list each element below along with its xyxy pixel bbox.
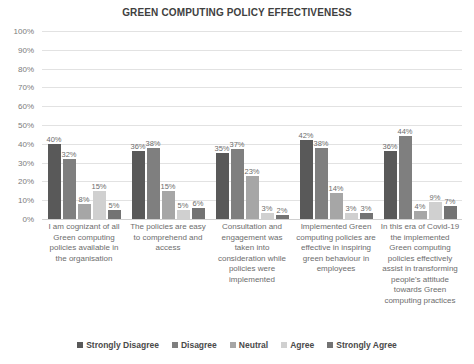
y-axis-tick-70: 70%: [18, 83, 34, 92]
bar-slot: 38%: [315, 31, 328, 219]
bar-slot: 3%: [360, 31, 373, 219]
bar-slot: 7%: [444, 31, 457, 219]
bar-value-label: 5%: [109, 201, 120, 210]
bar-slot: 32%: [63, 31, 76, 219]
bar[interactable]: [132, 151, 145, 219]
y-axis-tick-100: 100%: [14, 27, 34, 36]
bar-cluster: 42%38%14%3%3%: [294, 31, 378, 219]
bar[interactable]: [444, 206, 457, 219]
gridline-0: [42, 219, 462, 220]
bar[interactable]: [48, 144, 61, 219]
bar[interactable]: [147, 148, 160, 219]
bar-value-label: 7%: [445, 197, 456, 206]
bar[interactable]: [360, 213, 373, 219]
y-axis-tick-40: 40%: [18, 139, 34, 148]
legend-swatch-icon: [230, 342, 236, 348]
bar-value-label: 4%: [415, 202, 426, 211]
legend-swatch-icon: [77, 342, 83, 348]
bar-slot: 3%: [261, 31, 274, 219]
x-axis-category-label: The policies are easy to comprehend and …: [126, 222, 210, 332]
bar-value-label: 23%: [244, 167, 259, 176]
bar-groups: 40%32%8%15%5%36%38%15%5%6%35%37%23%3%2%4…: [42, 31, 462, 219]
bar-cluster: 36%44%4%9%7%: [378, 31, 462, 219]
bar[interactable]: [315, 148, 328, 219]
legend-item[interactable]: Agree: [281, 340, 314, 350]
bar-value-label: 36%: [382, 142, 397, 151]
bar[interactable]: [414, 211, 427, 219]
legend-label: Disagree: [181, 340, 217, 350]
legend-item[interactable]: Strongly Disagree: [77, 340, 159, 350]
bar-value-label: 3%: [262, 204, 273, 213]
bar[interactable]: [429, 202, 442, 219]
y-axis-tick-80: 80%: [18, 64, 34, 73]
bar[interactable]: [216, 153, 229, 219]
bar-slot: 37%: [231, 31, 244, 219]
bar-slot: 14%: [330, 31, 343, 219]
legend-item[interactable]: Neutral: [230, 340, 268, 350]
bar-group: 40%32%8%15%5%: [42, 31, 126, 219]
y-axis-tick-0: 0%: [22, 215, 34, 224]
y-axis-tick-60: 60%: [18, 102, 34, 111]
bar[interactable]: [192, 208, 205, 219]
bar-group: 36%38%15%5%6%: [126, 31, 210, 219]
bar-value-label: 15%: [160, 182, 175, 191]
bar-value-label: 38%: [313, 139, 328, 148]
bar-slot: 38%: [147, 31, 160, 219]
bar[interactable]: [384, 151, 397, 219]
bar-value-label: 9%: [430, 193, 441, 202]
legend-item[interactable]: Strongly Agree: [327, 340, 397, 350]
bar[interactable]: [108, 210, 121, 219]
y-axis: 0%10%20%30%40%50%60%70%80%90%100%: [0, 31, 38, 219]
bar[interactable]: [78, 204, 91, 219]
bar-group: 42%38%14%3%3%: [294, 31, 378, 219]
bar[interactable]: [399, 136, 412, 219]
bar[interactable]: [63, 159, 76, 219]
bar-value-label: 32%: [61, 150, 76, 159]
bar-slot: 36%: [384, 31, 397, 219]
bar-slot: 9%: [429, 31, 442, 219]
bar-value-label: 36%: [130, 142, 145, 151]
bar-group: 36%44%4%9%7%: [378, 31, 462, 219]
bar[interactable]: [261, 213, 274, 219]
bar-slot: 4%: [414, 31, 427, 219]
y-axis-tick-50: 50%: [18, 121, 34, 130]
bar[interactable]: [93, 191, 106, 219]
legend-swatch-icon: [281, 342, 287, 348]
legend-label: Strongly Disagree: [86, 340, 159, 350]
bar[interactable]: [162, 191, 175, 219]
bar-value-label: 37%: [229, 140, 244, 149]
bar-slot: 36%: [132, 31, 145, 219]
legend-label: Strongly Agree: [336, 340, 397, 350]
bar-slot: 42%: [300, 31, 313, 219]
bar-value-label: 42%: [298, 131, 313, 140]
bar-value-label: 2%: [277, 206, 288, 215]
bar[interactable]: [246, 176, 259, 219]
bar-value-label: 44%: [397, 127, 412, 136]
legend-label: Agree: [290, 340, 314, 350]
y-axis-tick-10: 10%: [18, 196, 34, 205]
bar-value-label: 5%: [178, 201, 189, 210]
bar[interactable]: [276, 215, 289, 219]
bar-value-label: 3%: [346, 204, 357, 213]
y-axis-tick-30: 30%: [18, 158, 34, 167]
bar[interactable]: [345, 213, 358, 219]
x-axis-category-labels: I am cognizant of all Green computing po…: [42, 222, 462, 332]
bar-slot: 6%: [192, 31, 205, 219]
bar[interactable]: [300, 140, 313, 219]
bar-slot: 8%: [78, 31, 91, 219]
legend-item[interactable]: Disagree: [172, 340, 217, 350]
bar-slot: 2%: [276, 31, 289, 219]
bar-value-label: 35%: [214, 144, 229, 153]
bar-slot: 35%: [216, 31, 229, 219]
bar-slot: 5%: [108, 31, 121, 219]
bar-slot: 15%: [93, 31, 106, 219]
bar[interactable]: [330, 193, 343, 219]
bar-value-label: 3%: [361, 204, 372, 213]
legend-swatch-icon: [172, 342, 178, 348]
bar[interactable]: [231, 149, 244, 219]
bar-slot: 15%: [162, 31, 175, 219]
bar-slot: 44%: [399, 31, 412, 219]
bar-value-label: 15%: [91, 182, 106, 191]
bar[interactable]: [177, 210, 190, 219]
bar-value-label: 40%: [46, 135, 61, 144]
